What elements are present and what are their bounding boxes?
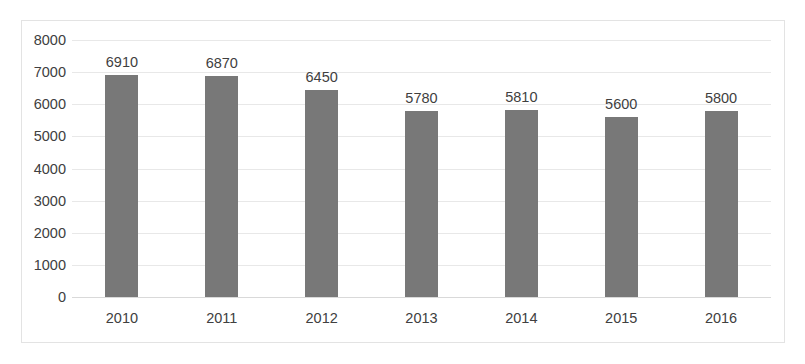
y-axis-tick-label: 1000 [22,258,66,273]
bar-value-label: 5810 [486,90,556,105]
axis-baseline [72,297,771,298]
x-axis-tick-label: 2012 [287,311,357,326]
bar [305,90,338,297]
y-axis-tick-label: 7000 [22,65,66,80]
x-axis-tick-label: 2013 [387,311,457,326]
x-axis-tick-label: 2010 [87,311,157,326]
y-axis-tick-label: 8000 [22,33,66,48]
bar [405,111,438,297]
bar [605,117,638,297]
plot-area [72,40,771,297]
bar-value-label: 5780 [387,91,457,106]
y-axis-tick-label: 3000 [22,194,66,209]
gridline [72,40,771,41]
x-axis-tick-label: 2016 [686,311,756,326]
gridline [72,72,771,73]
x-axis-tick-label: 2014 [486,311,556,326]
x-axis-tick-label: 2011 [187,311,257,326]
bar-value-label: 6870 [187,56,257,71]
y-axis-tick-label: 2000 [22,226,66,241]
y-axis-tick-label: 0 [22,290,66,305]
y-axis-tick-label: 5000 [22,129,66,144]
bar-value-label: 5600 [586,97,656,112]
bar-value-label: 6450 [287,70,357,85]
bar [105,75,138,297]
bar [205,76,238,297]
y-axis-tick-label: 4000 [22,162,66,177]
bar [705,111,738,297]
y-axis-tick-label: 6000 [22,97,66,112]
bar [505,110,538,297]
x-axis-tick-label: 2015 [586,311,656,326]
chart-frame: 800070006000500040003000200010000 691068… [21,20,785,343]
bar-value-label: 6910 [87,55,157,70]
bar-value-label: 5800 [686,91,756,106]
